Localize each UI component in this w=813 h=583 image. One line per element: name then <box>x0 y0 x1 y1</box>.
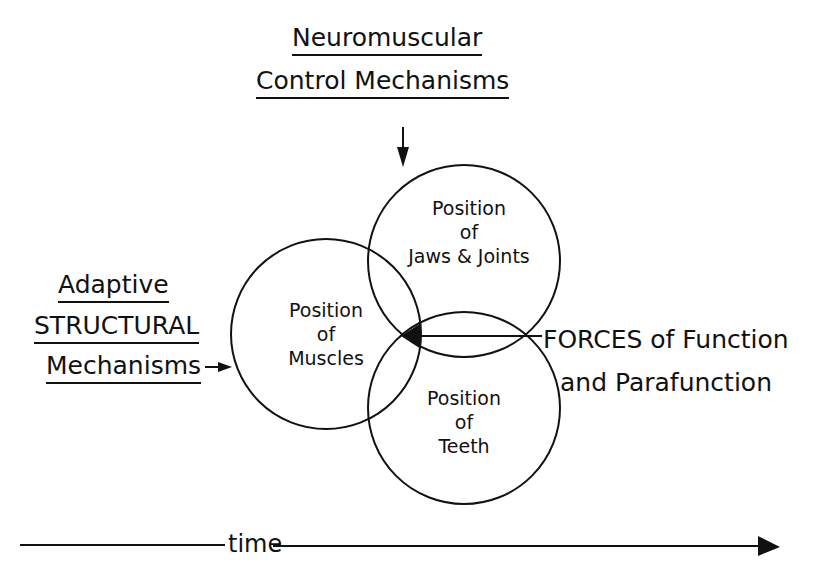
teeth-circle-text: Position of Teeth <box>384 386 544 458</box>
jaws-circle-text: Position of Jaws & Joints <box>384 196 554 268</box>
muscles-line3: Muscles <box>246 346 406 370</box>
jaws-line2: of <box>384 220 554 244</box>
muscles-line1: Position <box>246 298 406 322</box>
neuromuscular-label: Neuromuscular <box>292 25 482 56</box>
control-mechanisms-label: Control Mechanisms <box>256 68 509 99</box>
jaws-line1: Position <box>384 196 554 220</box>
mechanisms-label: Mechanisms <box>46 353 201 384</box>
teeth-line2: of <box>384 410 544 434</box>
forces-label: FORCES of Function <box>543 327 789 352</box>
teeth-line3: Teeth <box>384 434 544 458</box>
parafunction-label: and Parafunction <box>560 370 772 395</box>
jaws-line3: Jaws & Joints <box>384 244 554 268</box>
muscles-circle-text: Position of Muscles <box>246 298 406 370</box>
muscles-line2: of <box>246 322 406 346</box>
time-axis-label: time <box>228 532 282 556</box>
time-arrowhead-icon <box>758 536 780 556</box>
right-arrow-small-icon <box>218 362 232 372</box>
structural-label: STRUCTURAL <box>34 313 199 344</box>
down-arrow-icon <box>397 147 409 167</box>
teeth-line1: Position <box>384 386 544 410</box>
adaptive-label: Adaptive <box>58 272 169 303</box>
